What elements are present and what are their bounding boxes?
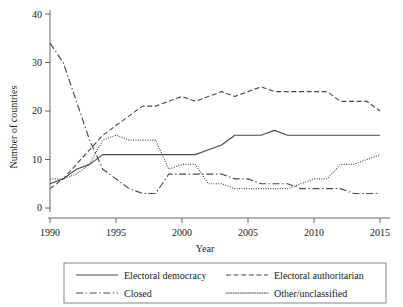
x-tick-label-1995: 1995 (106, 227, 126, 238)
line-chart: Number of countries 0 10 20 30 40 1990 1… (0, 0, 403, 307)
y-tick-label-30: 30 (32, 57, 42, 68)
legend: Electoral democracy Electoral authoritar… (64, 263, 386, 303)
chart-figure: Number of countries 0 10 20 30 40 1990 1… (0, 0, 403, 307)
series-closed (50, 43, 380, 193)
y-tick-label-40: 40 (32, 9, 42, 20)
legend-label-electoral-democracy: Electoral democracy (124, 270, 206, 281)
y-tick-label-0: 0 (37, 202, 42, 213)
x-tick-label-2015: 2015 (370, 227, 390, 238)
y-axis-label: Number of countries (8, 86, 19, 169)
x-tick-label-2005: 2005 (238, 227, 258, 238)
series-group (50, 43, 380, 193)
y-tick-label-20: 20 (32, 105, 42, 116)
legend-label-closed: Closed (124, 288, 152, 299)
x-tick-label-1990: 1990 (40, 227, 60, 238)
y-tick-label-10: 10 (32, 154, 42, 165)
x-tick-label-2010: 2010 (304, 227, 324, 238)
series-electoral-authoritarian (50, 87, 380, 189)
x-axis-label: Year (196, 243, 215, 254)
legend-label-electoral-authoritarian: Electoral authoritarian (274, 270, 364, 281)
legend-label-other-unclassified: Other/unclassified (274, 288, 347, 299)
x-tick-label-2000: 2000 (172, 227, 192, 238)
